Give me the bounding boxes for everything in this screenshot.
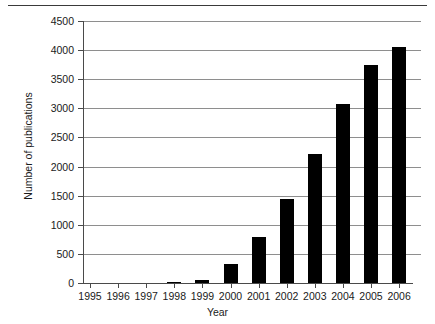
chart-figure: 050010001500200025003000350040004500 199… xyxy=(0,0,435,324)
bar xyxy=(392,47,406,283)
y-axis-tick xyxy=(78,283,83,284)
y-axis-tick xyxy=(78,79,83,80)
bar xyxy=(195,280,209,283)
x-axis-tick xyxy=(90,283,91,288)
gridline xyxy=(83,50,421,51)
x-axis-tick-label: 2006 xyxy=(379,290,419,302)
plot-area: 050010001500200025003000350040004500 199… xyxy=(0,0,435,324)
y-axis-tick xyxy=(78,254,83,255)
x-axis-tick xyxy=(371,283,372,288)
bar xyxy=(252,237,266,283)
bar xyxy=(224,264,238,283)
x-axis-tick xyxy=(399,283,400,288)
x-axis-tick xyxy=(231,283,232,288)
x-axis-title: Year xyxy=(0,306,435,318)
y-axis-line xyxy=(83,21,84,284)
x-axis-tick xyxy=(174,283,175,288)
y-axis-tick xyxy=(78,50,83,51)
x-axis-tick xyxy=(287,283,288,288)
bar xyxy=(364,65,378,283)
x-axis-tick xyxy=(146,283,147,288)
x-axis-line xyxy=(83,283,413,284)
x-axis-tick xyxy=(315,283,316,288)
bar xyxy=(167,282,181,283)
y-axis-tick-label: 0 xyxy=(14,278,74,288)
y-axis-tick-label: 500 xyxy=(14,249,74,259)
y-axis-tick xyxy=(78,21,83,22)
y-axis-tick-label: 4000 xyxy=(14,45,74,55)
gridline xyxy=(83,21,421,22)
x-axis-tick xyxy=(202,283,203,288)
y-axis-tick xyxy=(78,108,83,109)
x-axis-tick xyxy=(343,283,344,288)
y-axis-tick xyxy=(78,225,83,226)
y-axis-tick xyxy=(78,167,83,168)
x-axis-tick xyxy=(259,283,260,288)
y-axis-title: Number of publications xyxy=(22,56,34,236)
bar xyxy=(336,104,350,283)
bar xyxy=(280,199,294,283)
y-axis-tick-label: 4500 xyxy=(14,16,74,26)
y-axis-tick xyxy=(78,196,83,197)
bar xyxy=(308,154,322,283)
x-axis-tick xyxy=(118,283,119,288)
y-axis-tick xyxy=(78,137,83,138)
